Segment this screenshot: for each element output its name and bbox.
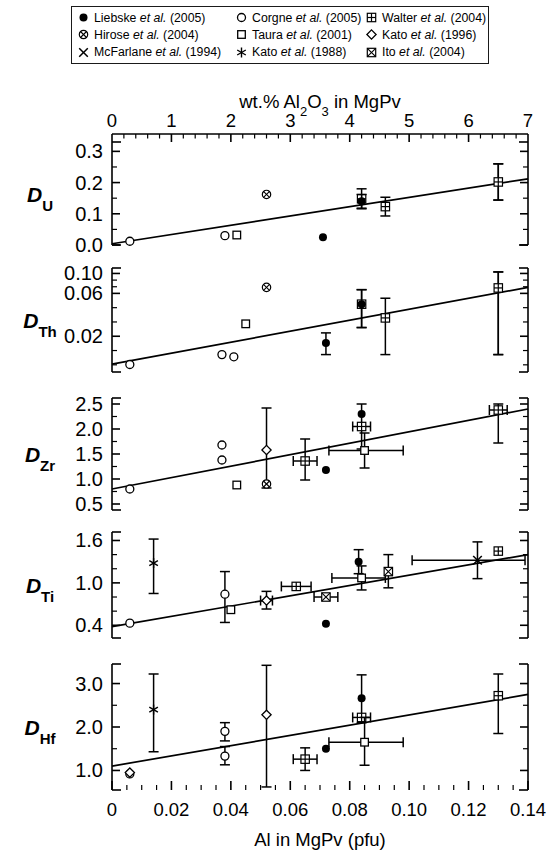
data-point	[493, 272, 503, 355]
svg-text:wt.% Al2O3 in MgPv: wt.% Al2O3 in MgPv	[238, 91, 401, 119]
legend-item-label: Ito et al. (2004)	[382, 46, 465, 58]
data-point	[262, 283, 270, 291]
crossed-circle-icon	[77, 28, 90, 41]
crossed-square-marker	[301, 457, 309, 465]
legend-item-label: Walter et al. (2004)	[382, 12, 486, 24]
legend-item-label: Kato et al. (1988)	[252, 46, 346, 58]
asterisk-marker	[149, 558, 158, 568]
crossed-circle-marker	[262, 190, 270, 198]
panel-label-DU: DU	[27, 183, 53, 214]
filled-circle-marker	[358, 300, 366, 308]
y-axis-tick-label: 0.4	[75, 614, 103, 636]
filled-circle-marker	[358, 197, 366, 205]
open-circle-marker	[221, 727, 229, 735]
open-square-marker	[361, 738, 369, 746]
data-point	[321, 333, 331, 355]
legend-item-kato-1996: Kato et al. (1996)	[365, 28, 495, 41]
top-axis-title: wt.% Al2O3 in MgPv	[238, 91, 401, 119]
crossed-square-marker	[292, 582, 300, 590]
data-point	[227, 606, 235, 614]
bottom-axis-tick-label: 0.14	[510, 799, 546, 820]
multi-panel-scatter-plot: 01234567wt.% Al2O3 in MgPv0.00.10.20.3DU…	[0, 0, 560, 868]
filled-circle-marker	[358, 694, 366, 702]
bottom-axis-tick-label: 0.06	[272, 799, 308, 820]
crossed-square-marker	[357, 422, 365, 430]
crossed-square-marker	[381, 202, 389, 210]
open-diamond-marker	[262, 596, 271, 605]
top-axis-tick-label: 0	[107, 110, 117, 131]
crossed-square-marker	[494, 547, 502, 555]
data-point	[329, 717, 403, 765]
legend-item-label: Hirose et al. (2004)	[94, 29, 199, 41]
data-point	[322, 466, 330, 474]
open-square-marker	[233, 231, 241, 239]
crossed-square-marker	[381, 314, 389, 322]
y-axis-tick-label: 2.0	[75, 418, 103, 440]
boxed-x-marker	[322, 593, 330, 601]
regression-line	[112, 287, 528, 364]
data-point	[314, 592, 338, 602]
data-point	[233, 231, 241, 239]
data-point	[149, 674, 159, 752]
legend-item-mcfarlane-1994: McFarlane et al. (1994)	[77, 46, 235, 59]
filled-circle-marker	[358, 410, 366, 418]
y-axis-tick-label: 3.0	[75, 673, 103, 695]
data-point	[412, 542, 525, 579]
data-point	[126, 485, 134, 493]
data-point	[353, 422, 371, 432]
filled-circle-marker	[319, 233, 327, 241]
open-circle-marker	[221, 232, 229, 240]
y-axis-tick-label: 1.0	[75, 572, 103, 594]
open-diamond-marker	[262, 445, 271, 454]
filled-circle-icon	[77, 11, 90, 24]
panel-label-DTh: DTh	[23, 309, 57, 340]
bottom-axis-title: Al in MgPv (pfu)	[254, 829, 386, 850]
crossed-square-marker	[494, 284, 502, 292]
data-point	[293, 748, 317, 771]
data-point	[218, 441, 226, 449]
top-axis-tick-label: 5	[404, 110, 414, 131]
panel-DTh: 0.100.060.02DTh	[23, 262, 528, 372]
legend-item-kato-1988: Kato et al. (1988)	[235, 46, 365, 59]
legend-item-label: Taura et al. (2001)	[252, 29, 352, 41]
open-circle-marker	[230, 353, 238, 361]
data-point	[262, 480, 270, 488]
legend: Liebske et al. (2005)Hirose et al. (2004…	[71, 6, 489, 64]
y-axis-tick-label: 1.0	[75, 468, 103, 490]
y-axis-tick-label: 0.06	[64, 282, 103, 304]
y-axis-tick-label: 0.3	[75, 140, 103, 162]
figure-root: Liebske et al. (2005)Hirose et al. (2004…	[0, 0, 560, 868]
data-point	[126, 619, 134, 627]
open-square-marker	[227, 606, 235, 614]
data-point	[242, 320, 250, 328]
legend-item-liebske-2005: Liebske et al. (2005)	[77, 11, 235, 24]
y-axis-tick-label: 2.0	[75, 716, 103, 738]
asterisk-icon	[235, 46, 248, 59]
data-point	[380, 298, 390, 354]
data-point	[220, 723, 230, 741]
data-point	[281, 581, 311, 591]
panel-DU: 0.00.10.20.3DU	[27, 140, 528, 256]
y-axis-tick-label: 1.6	[75, 529, 103, 551]
legend-item-label: Liebske et al. (2005)	[94, 12, 205, 24]
data-point	[149, 539, 159, 593]
open-circle-marker	[218, 456, 226, 464]
open-circle-marker	[221, 590, 229, 598]
y-axis-tick-label: 0.5	[75, 493, 103, 515]
data-point	[220, 747, 230, 765]
open-circle-marker	[126, 485, 134, 493]
legend-item-label: Kato et al. (1996)	[382, 29, 476, 41]
data-point	[319, 233, 327, 241]
data-point	[126, 237, 134, 245]
data-point	[233, 481, 241, 489]
boxed-x-icon	[365, 46, 378, 59]
open-square-icon	[235, 28, 248, 41]
data-point	[218, 351, 226, 359]
boxed-x-marker	[384, 567, 392, 575]
legend-item-ito-2004: Ito et al. (2004)	[365, 46, 495, 59]
open-circle-icon	[235, 11, 248, 24]
top-axis-tick-label: 3	[285, 110, 295, 131]
y-axis-tick-label: 0.1	[75, 203, 103, 225]
open-circle-marker	[218, 441, 226, 449]
data-point	[126, 360, 134, 368]
